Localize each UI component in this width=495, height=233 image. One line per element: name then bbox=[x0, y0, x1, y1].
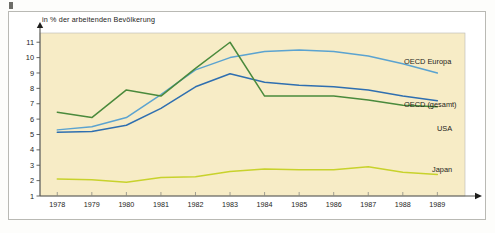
y-tick-label: 2 bbox=[30, 176, 34, 185]
x-tick-label: 1985 bbox=[291, 200, 307, 209]
x-tick-label: 1988 bbox=[395, 200, 411, 209]
y-tick-label: 9 bbox=[30, 69, 34, 78]
series-label-oecd-gesamt: OECD (gesamt) bbox=[404, 100, 457, 109]
x-tick-label: 1978 bbox=[49, 200, 65, 209]
chart-figure: in % der arbeitenden Bevölkerung 1234567… bbox=[0, 0, 495, 233]
y-axis-ticks: 1234567891011 bbox=[26, 38, 40, 201]
y-tick-label: 7 bbox=[30, 99, 34, 108]
x-tick-label: 1989 bbox=[429, 200, 445, 209]
x-tick-label: 1979 bbox=[84, 200, 100, 209]
x-tick-label: 1982 bbox=[187, 200, 203, 209]
y-tick-label: 1 bbox=[30, 192, 34, 201]
x-tick-label: 1983 bbox=[222, 200, 238, 209]
x-tick-label: 1986 bbox=[326, 200, 342, 209]
x-tick-label: 1987 bbox=[360, 200, 376, 209]
y-tick-label: 4 bbox=[30, 145, 34, 154]
y-tick-label: 3 bbox=[30, 161, 34, 170]
y-tick-label: 10 bbox=[26, 53, 34, 62]
x-tick-label: 1981 bbox=[153, 200, 169, 209]
y-tick-label: 8 bbox=[30, 84, 34, 93]
x-tick-label: 1980 bbox=[118, 200, 134, 209]
x-tick-label: 1984 bbox=[257, 200, 273, 209]
series-label-usa: USA bbox=[437, 124, 452, 133]
line-chart-plot: 1234567891011 19781979198019811982198319… bbox=[0, 0, 495, 233]
y-tick-label: 6 bbox=[30, 115, 34, 124]
series-label-japan: Japan bbox=[432, 165, 452, 174]
y-tick-label: 11 bbox=[26, 38, 34, 47]
series-label-oecd-europa: OECD Europa bbox=[404, 57, 452, 66]
y-tick-label: 5 bbox=[30, 130, 34, 139]
